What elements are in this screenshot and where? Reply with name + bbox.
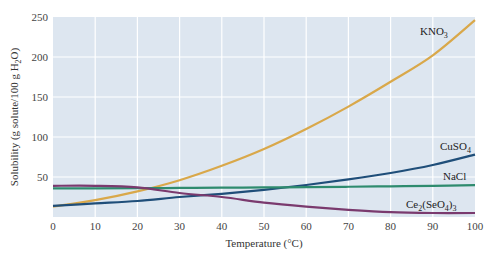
y-axis-label: Solubility (g solute/100 g H2O) xyxy=(8,47,23,186)
x-tick-label: 90 xyxy=(427,220,439,232)
x-tick-label: 40 xyxy=(216,220,228,232)
label-nacl: NaCl xyxy=(443,170,466,182)
x-tick-label: 10 xyxy=(90,220,102,232)
y-axis-ticks: 50100150200250 xyxy=(32,11,49,183)
y-tick-label: 200 xyxy=(32,51,49,63)
x-tick-label: 50 xyxy=(259,220,271,232)
x-tick-label: 20 xyxy=(132,220,144,232)
x-axis-ticks: 0102030405060708090100 xyxy=(50,220,484,232)
y-tick-label: 250 xyxy=(32,11,49,23)
x-tick-label: 100 xyxy=(467,220,484,232)
x-tick-label: 0 xyxy=(50,220,56,232)
x-tick-label: 80 xyxy=(385,220,397,232)
y-tick-label: 100 xyxy=(32,131,49,143)
solubility-chart: 0102030405060708090100 50100150200250 Te… xyxy=(0,0,496,260)
y-tick-label: 150 xyxy=(32,91,49,103)
y-tick-label: 50 xyxy=(37,171,49,183)
x-tick-label: 70 xyxy=(343,220,355,232)
x-tick-label: 30 xyxy=(174,220,186,232)
x-tick-label: 60 xyxy=(301,220,313,232)
x-axis-label: Temperature (°C) xyxy=(225,237,303,250)
